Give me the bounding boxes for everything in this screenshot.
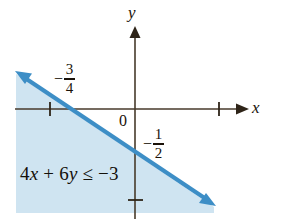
origin-label: 0 bbox=[119, 113, 127, 129]
x-intercept-numerator: 3 bbox=[65, 62, 75, 77]
coordinate-plane-svg bbox=[0, 0, 281, 219]
x-axis-label: x bbox=[252, 99, 260, 116]
x-intercept-denominator: 4 bbox=[65, 81, 75, 96]
y-intercept-fraction: 1 2 bbox=[153, 127, 164, 161]
y-intercept-label: − 1 2 bbox=[143, 127, 164, 161]
inequality-graph-figure: y x 0 − 3 4 − 1 2 4x + 6y ≤ −3 bbox=[0, 0, 281, 219]
inequality-coef-y: 6 bbox=[59, 163, 69, 184]
x-intercept-fraction: 3 4 bbox=[64, 62, 75, 96]
inequality-label: 4x + 6y ≤ −3 bbox=[20, 163, 119, 185]
inequality-coef-x: 4 bbox=[20, 163, 30, 184]
shaded-region bbox=[16, 74, 214, 213]
y-intercept-denominator: 2 bbox=[154, 146, 164, 161]
y-intercept-numerator: 1 bbox=[154, 127, 164, 142]
inequality-var-y: y bbox=[69, 163, 78, 184]
inequality-rhs: −3 bbox=[98, 163, 119, 184]
x-intercept-label: − 3 4 bbox=[54, 62, 75, 96]
x-intercept-minus-sign: − bbox=[54, 71, 63, 87]
inequality-var-x: x bbox=[30, 163, 39, 184]
inequality-relation: ≤ bbox=[82, 163, 93, 184]
y-axis-label: y bbox=[128, 4, 136, 21]
inequality-plus: + bbox=[43, 163, 54, 184]
y-intercept-minus-sign: − bbox=[143, 136, 152, 152]
